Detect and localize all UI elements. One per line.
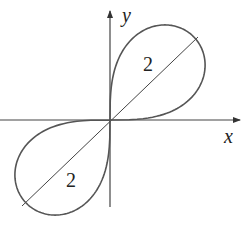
x-axis-label: x <box>223 125 233 147</box>
upper-lobe-label: 2 <box>143 53 153 75</box>
lemniscate-diagram: y x 2 2 <box>0 0 244 225</box>
lower-lobe-label: 2 <box>66 169 76 191</box>
y-axis-label: y <box>120 4 131 27</box>
